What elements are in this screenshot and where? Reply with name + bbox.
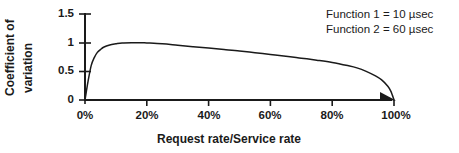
x-axis-title: Request rate/Service rate: [157, 133, 301, 145]
x-tick-label-100: 100%: [381, 110, 410, 122]
x-tick-label-0: 0%: [77, 110, 94, 122]
x-tick-label-20: 20%: [135, 110, 158, 122]
y-axis-title-line-1: Coefficient of: [4, 10, 16, 106]
y-tick-label-0: 0: [42, 94, 74, 106]
data-curve: [85, 43, 394, 100]
chart-figure: 1.5 1 0.5 0 0% 20% 40% 60% 80% 100% Requ…: [0, 0, 459, 153]
chart-legend: Function 1 = 10 µsec Function 2 = 60 µse…: [326, 7, 433, 37]
y-tick-label-0-5: 0.5: [42, 65, 74, 77]
y-tick-label-1-5: 1.5: [42, 8, 74, 20]
y-tick-label-1: 1: [42, 37, 74, 49]
legend-item-function-1: Function 1 = 10 µsec: [326, 7, 433, 22]
x-tick-label-60: 60%: [258, 110, 281, 122]
legend-item-function-2: Function 2 = 60 µsec: [326, 22, 433, 37]
x-tick-label-40: 40%: [197, 110, 220, 122]
x-tick-label-80: 80%: [320, 110, 343, 122]
y-axis-title-line-2: variation: [22, 30, 34, 106]
